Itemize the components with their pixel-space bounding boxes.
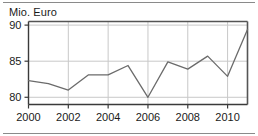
x-tick-label: 2000 [16, 111, 40, 123]
x-tick-label: 2002 [56, 111, 80, 123]
y-tick-label: 90 [9, 19, 21, 31]
x-gridlines-group [68, 22, 227, 105]
gridlines-group [29, 25, 248, 97]
y-tick-label: 85 [9, 55, 21, 67]
chart-figure: Mio. Euro 808590 20002002200420062008201… [0, 0, 258, 136]
series-polyline [29, 29, 248, 97]
y-axis-tick-labels: 808590 [9, 19, 21, 103]
x-tick-label: 2010 [215, 111, 239, 123]
x-axis-tick-labels: 200020022004200620082010 [16, 111, 240, 123]
x-tick-label: 2004 [96, 111, 120, 123]
plot-area: 808590 200020022004200620082010 [0, 0, 258, 136]
data-series-line [29, 29, 248, 97]
x-tick-label: 2008 [176, 111, 200, 123]
x-tick-label: 2006 [136, 111, 160, 123]
y-tick-label: 80 [9, 91, 21, 103]
line-chart-svg: 808590 200020022004200620082010 [0, 0, 258, 136]
